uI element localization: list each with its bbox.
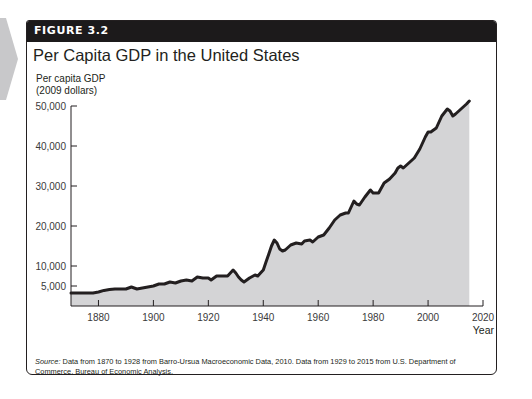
x-tick-label: 1960: [307, 312, 330, 323]
y-tick-label: 50,000: [35, 101, 66, 112]
x-tick-label: 1980: [362, 312, 385, 323]
area-fill-layer: [71, 101, 469, 306]
x-axis-title: Year: [473, 324, 495, 336]
gdp-area-chart: 5,00010,00020,00030,00040,00050,00018801…: [0, 0, 532, 399]
x-tick-label: 1880: [87, 312, 110, 323]
y-tick-label: 10,000: [35, 261, 66, 272]
area-fill: [71, 101, 469, 306]
y-tick-label: 40,000: [35, 141, 66, 152]
y-tick-label: 5,000: [41, 281, 66, 292]
x-tick-label: 1920: [197, 312, 220, 323]
y-tick-label: 20,000: [35, 221, 66, 232]
x-tick-label: 1940: [252, 312, 275, 323]
x-tick-label: 1900: [142, 312, 165, 323]
y-tick-label: 30,000: [35, 181, 66, 192]
x-tick-label: 2000: [417, 312, 440, 323]
x-tick-label: 2020: [472, 312, 495, 323]
